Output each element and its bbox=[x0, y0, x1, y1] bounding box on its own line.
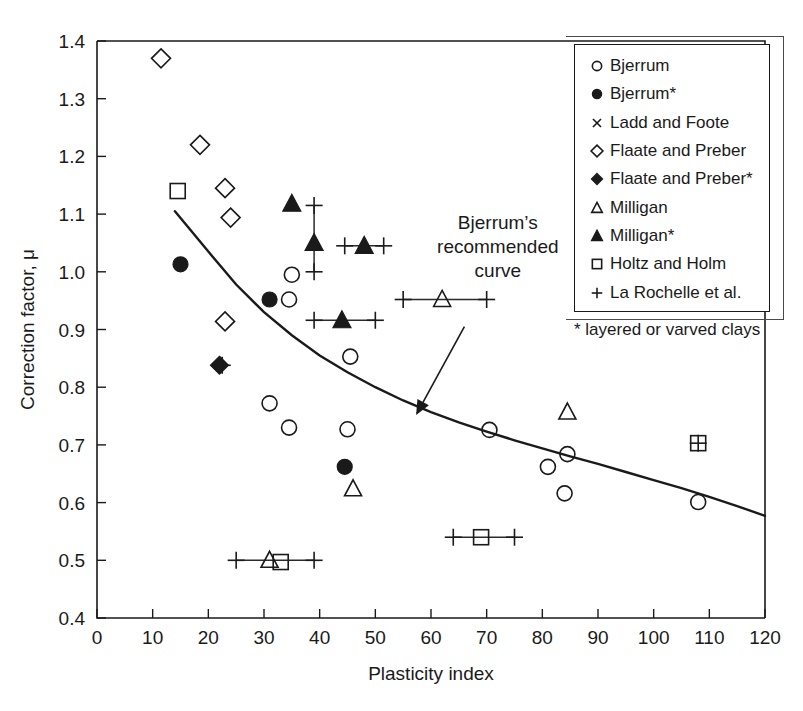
legend-item[interactable]: La Rochelle et al. bbox=[575, 278, 769, 306]
x-tick-label: 40 bbox=[309, 627, 330, 648]
marker-open-circle bbox=[340, 422, 355, 437]
legend-item[interactable]: Flaate and Preber* bbox=[575, 165, 769, 193]
marker-plus bbox=[592, 287, 603, 298]
marker-open-square bbox=[170, 184, 185, 199]
open-triangle-icon bbox=[586, 198, 608, 218]
series-flaate-and-preber bbox=[152, 49, 241, 331]
open-circle-icon bbox=[586, 56, 608, 76]
series-milligan bbox=[261, 290, 576, 567]
marker-plus bbox=[506, 529, 523, 546]
marker-filled-circle bbox=[592, 90, 601, 99]
marker-open-triangle bbox=[345, 480, 362, 496]
marker-open-circle bbox=[540, 459, 555, 474]
legend-item[interactable]: Milligan* bbox=[575, 222, 769, 250]
y-tick-label: 0.8 bbox=[59, 377, 85, 398]
x-tick-label: 20 bbox=[198, 627, 219, 648]
x-tick-label: 80 bbox=[532, 627, 553, 648]
marker-filled-circle bbox=[337, 459, 352, 474]
marker-plus bbox=[375, 237, 392, 254]
marker-open-circle bbox=[284, 267, 299, 282]
y-tick-label: 1.0 bbox=[59, 262, 85, 283]
open-square-icon bbox=[586, 254, 608, 274]
y-tick-label: 1.1 bbox=[59, 204, 85, 225]
marker-open-circle bbox=[262, 396, 277, 411]
marker-filled-triangle bbox=[333, 311, 351, 328]
filled-triangle-icon bbox=[586, 226, 608, 246]
marker-plus bbox=[228, 552, 245, 569]
marker-filled-circle bbox=[173, 257, 188, 272]
marker-open-diamond bbox=[152, 49, 171, 68]
marker-open-diamond bbox=[216, 179, 235, 198]
marker-plus bbox=[445, 529, 462, 546]
x-tick-label: 60 bbox=[420, 627, 441, 648]
marker-plus bbox=[367, 312, 384, 329]
y-tick-label: 1.3 bbox=[59, 89, 85, 110]
x-tick-label: 100 bbox=[638, 627, 670, 648]
x-tick-label: 30 bbox=[253, 627, 274, 648]
annotation-line: Bjerrum’s bbox=[458, 212, 538, 233]
x-tick-label: 50 bbox=[365, 627, 386, 648]
marker-plus bbox=[395, 291, 412, 308]
annotation-line: curve bbox=[475, 260, 521, 281]
legend-item-label: Milligan* bbox=[610, 226, 674, 246]
legend-item[interactable]: Ladd and Foote bbox=[575, 109, 769, 137]
plus-icon bbox=[586, 283, 608, 303]
legend-item-label: Flaate and Preber bbox=[610, 141, 746, 161]
marker-cross-x bbox=[593, 119, 601, 127]
marker-filled-triangle bbox=[355, 236, 373, 253]
legend-item[interactable]: Bjerrum* bbox=[575, 80, 769, 108]
legend-item-label: Milligan bbox=[610, 198, 668, 218]
y-tick-label: 1.2 bbox=[59, 146, 85, 167]
legend: BjerrumBjerrum*Ladd and FooteFlaate and … bbox=[574, 44, 770, 312]
x-tick-label: 110 bbox=[694, 627, 724, 648]
marker-open-triangle bbox=[592, 202, 603, 212]
legend-item[interactable]: Holtz and Holm bbox=[575, 250, 769, 278]
annotation-line: recommended bbox=[437, 236, 558, 257]
marker-filled-circle bbox=[262, 292, 277, 307]
marker-filled-triangle bbox=[283, 194, 301, 211]
y-tick-label: 0.9 bbox=[59, 320, 85, 341]
legend-item-label: Bjerrum* bbox=[610, 84, 676, 104]
filled-circle-icon bbox=[586, 84, 608, 104]
series-milligan bbox=[283, 194, 373, 328]
marker-plus bbox=[478, 291, 495, 308]
marker-open-circle bbox=[592, 61, 601, 70]
x-tick-label: 70 bbox=[476, 627, 497, 648]
marker-plus bbox=[306, 312, 323, 329]
marker-open-circle bbox=[557, 486, 572, 501]
x-tick-label: 120 bbox=[749, 627, 781, 648]
open-diamond-icon bbox=[586, 141, 608, 161]
marker-open-circle bbox=[343, 349, 358, 364]
marker-open-circle bbox=[691, 495, 706, 510]
y-tick-label: 0.7 bbox=[59, 435, 85, 456]
x-tick-label: 0 bbox=[92, 627, 103, 648]
marker-open-triangle bbox=[261, 551, 278, 567]
marker-plus bbox=[336, 237, 353, 254]
legend-item[interactable]: Flaate and Preber bbox=[575, 137, 769, 165]
series-la-rochelle-et-al bbox=[214, 357, 707, 452]
x-tick-label: 10 bbox=[142, 627, 163, 648]
marker-plus bbox=[306, 263, 323, 280]
y-tick-label: 0.4 bbox=[59, 608, 86, 629]
cross-x-icon bbox=[586, 113, 608, 133]
marker-plus bbox=[306, 197, 323, 214]
marker-filled-triangle bbox=[305, 233, 323, 250]
legend-item-label: La Rochelle et al. bbox=[610, 283, 741, 303]
marker-filled-triangle bbox=[591, 230, 602, 241]
legend-item[interactable]: Bjerrum bbox=[575, 52, 769, 80]
curve-annotation: Bjerrum’srecommendedcurve bbox=[417, 212, 558, 414]
legend-item-label: Flaate and Preber* bbox=[610, 169, 753, 189]
legend-item[interactable]: Milligan bbox=[575, 193, 769, 221]
marker-open-diamond bbox=[591, 145, 603, 157]
legend-item-label: Holtz and Holm bbox=[610, 254, 726, 274]
marker-open-triangle bbox=[434, 290, 451, 306]
marker-open-diamond bbox=[216, 312, 235, 331]
marker-open-diamond bbox=[221, 208, 240, 227]
y-tick-label: 1.4 bbox=[59, 31, 86, 52]
legend-footnote: * layered or varved clays bbox=[574, 320, 784, 340]
y-tick-label: 0.5 bbox=[59, 550, 85, 571]
chart-figure: 01020304050607080901001101200.40.50.60.7… bbox=[0, 0, 803, 711]
x-axis-title: Plasticity index bbox=[368, 663, 494, 684]
marker-plus bbox=[306, 552, 323, 569]
x-tick-label: 90 bbox=[587, 627, 608, 648]
